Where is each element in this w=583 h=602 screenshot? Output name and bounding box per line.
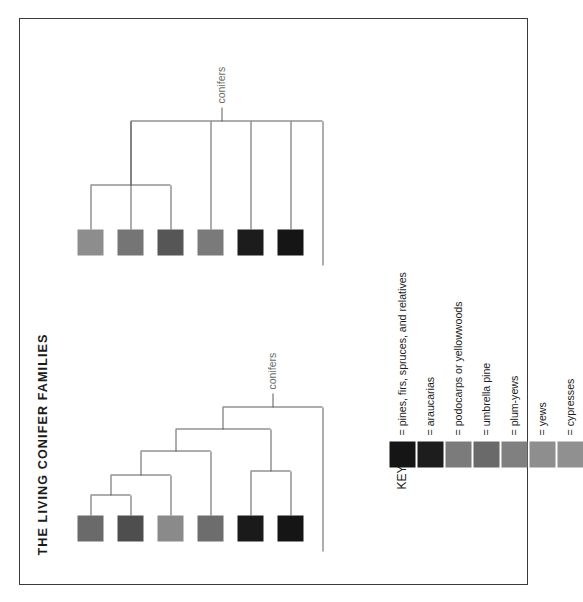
leaf2-box-podocarps (157, 229, 183, 255)
key-swatch-podocarps-or-yellowwoods (445, 441, 471, 467)
key-label-plum-yews: = plum-yews (507, 375, 519, 435)
clade-label-conifers-lower: conifers (214, 66, 226, 103)
branch-tip-5 (250, 471, 251, 515)
key-swatch-araucarias (417, 441, 443, 467)
page-title: THE LIVING CONIFER FAMILIES (35, 333, 49, 555)
node-a-stem (110, 475, 111, 495)
branch-tip-4 (210, 451, 211, 515)
figure-border: THE LIVING CONIFER FAMILIES (19, 18, 528, 585)
branch2-tip-6 (290, 121, 291, 229)
branch-tip-2 (130, 495, 131, 515)
node-d-stem (270, 429, 271, 471)
branch2-tip-1 (90, 185, 91, 229)
node-b-stem (140, 451, 141, 475)
basal-branch (322, 407, 323, 551)
leaf2-box-plum-yews (117, 229, 143, 255)
leaf2-box-pinaceae (277, 229, 303, 255)
leaf-box-plum-yews (117, 515, 143, 541)
root2-vertical (130, 120, 322, 121)
node-c-stem (175, 429, 176, 451)
key-swatch-yews (529, 441, 555, 467)
leaf-box-araucarias (237, 515, 263, 541)
key-label-araucarias: = araucarias (423, 376, 435, 435)
branch-tip-1 (90, 495, 91, 515)
node2-a-stem (130, 121, 131, 185)
leaf-box-pinaceae (277, 515, 303, 541)
key-label-cypresses: = cypresses (563, 378, 575, 435)
leaf2-box-araucarias (237, 229, 263, 255)
node-e-stem (222, 407, 223, 429)
branch-tip-6 (290, 471, 291, 515)
key-swatch-cypresses (557, 441, 583, 467)
leaf2-box-cypresses (197, 229, 223, 255)
root-stem (272, 393, 273, 407)
root2-stem (221, 107, 222, 121)
key-label-podocarps-or-yellowwoods: = podocarps or yellowwoods (451, 301, 463, 435)
clade-label-conifers-upper: conifers (265, 352, 277, 389)
key-swatch-pines-firs-spruces-and-relatives (389, 441, 415, 467)
key-label-yews: = yews (535, 402, 547, 435)
key-label-umbrella-pine: = umbrella pine (479, 362, 491, 435)
key-swatch-umbrella-pine (473, 441, 499, 467)
branch2-tip-4 (210, 121, 211, 229)
branch2-tip-3 (170, 185, 171, 229)
branch-tip-3 (170, 475, 171, 515)
leaf2-box-yews (77, 229, 103, 255)
leaf-box-umbrella-pine (77, 515, 103, 541)
branch2-tip-5 (250, 121, 251, 229)
basal2-branch (322, 121, 323, 265)
key-swatch-plum-yews (501, 441, 527, 467)
rotated-figure-plane: THE LIVING CONIFER FAMILIES (19, 18, 528, 585)
leaf-box-cypresses (197, 515, 223, 541)
leaf-box-yews (157, 515, 183, 541)
key-label-pines-firs-spruces-and-relatives: = pines, firs, spruces, and relatives (395, 272, 407, 435)
